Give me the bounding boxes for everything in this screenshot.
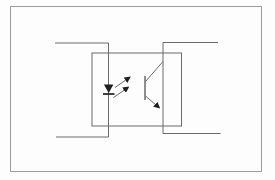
package-outline (92, 53, 182, 126)
phototransistor-symbol (145, 62, 163, 108)
light-emission-arrows (114, 78, 130, 98)
transistor-lead-wire (163, 43, 221, 134)
figure-border (11, 7, 262, 172)
led-anode-triangle (104, 84, 114, 93)
light-arrow-lower (114, 88, 129, 98)
transistor-collector-line (146, 62, 164, 82)
light-arrow-upper (115, 78, 130, 88)
schematic-figure (0, 0, 275, 180)
led-symbol (103, 84, 115, 94)
optocoupler-schematic (0, 0, 275, 180)
transistor-emitter-arrow (146, 96, 160, 108)
led-lead-wire (55, 43, 109, 137)
